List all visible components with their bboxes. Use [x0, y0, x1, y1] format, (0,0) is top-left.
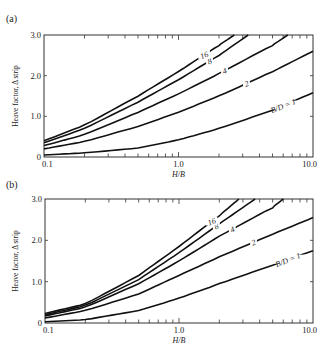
panel-label: (b)	[6, 179, 18, 191]
plot-frame	[44, 35, 313, 157]
x-tick-label: 1.0	[174, 325, 185, 335]
y-tick-label: 0	[38, 318, 42, 328]
y-axis-label: Heave factor, Δ strip	[11, 230, 20, 292]
y-tick-label: 3.0	[31, 194, 42, 204]
x-tick-label: 10.0	[302, 325, 317, 335]
y-tick-label: 2.0	[30, 71, 41, 81]
y-tick-label: 3.0	[30, 30, 41, 40]
x-tick-label: 0.1	[43, 325, 54, 335]
chart-panel-b: (b)01.02.03.00.11.010.0H/BHeave factor, …	[6, 179, 317, 345]
x-tick-label: 1.0	[173, 159, 184, 169]
curve-label: B/D = 1	[274, 251, 302, 269]
y-tick-label: 1.0	[31, 277, 42, 287]
y-axis-label: Heave factor, Δ strip	[11, 65, 20, 127]
curve-bd-8	[44, 35, 248, 143]
heave-factor-figure: (a)01.02.03.00.11.010.0H/BHeave factor, …	[0, 0, 333, 353]
y-tick-label: 0	[37, 152, 41, 162]
curve-label: B/D = 1	[269, 97, 297, 115]
chart-panel-a: (a)01.02.03.00.11.010.0H/BHeave factor, …	[6, 13, 317, 179]
x-axis-label: H/B	[172, 336, 186, 345]
x-axis-label: H/B	[171, 170, 185, 179]
curve-bd-16	[45, 199, 239, 314]
y-tick-label: 1.0	[30, 111, 41, 121]
panel-label: (a)	[6, 13, 17, 25]
x-tick-label: 10.0	[302, 159, 317, 169]
x-tick-label: 0.1	[42, 159, 53, 169]
curve-bd-8	[45, 199, 255, 315]
y-tick-label: 2.0	[31, 235, 42, 245]
